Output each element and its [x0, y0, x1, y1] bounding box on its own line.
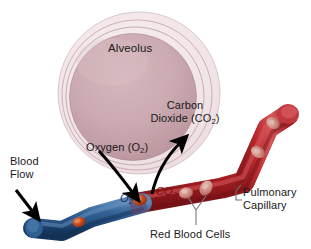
blood-flow-line1: Blood [10, 155, 39, 167]
o2-inline-subscript: 2 [129, 197, 133, 206]
o2-inline-text: O [120, 192, 129, 204]
blood-flow-label: BloodFlow [10, 155, 39, 181]
carbon-dioxide-subscript: 2 [211, 117, 215, 126]
blood-flow-arrow [16, 190, 33, 212]
oxygen-subscript: 2 [140, 146, 144, 155]
carbon-dioxide-line2-pre: Dioxide (CO [150, 112, 211, 124]
alveolus-label: Alveolus [108, 42, 152, 55]
blood-flow-line2: Flow [10, 168, 34, 180]
pulmonary-capillary-line1: Pulmonary [243, 186, 296, 198]
carbon-dioxide-label: CarbonDioxide (CO2) [142, 99, 228, 126]
figure-canvas: Alveolus CarbonDioxide (CO2) Oxygen (O2)… [0, 0, 311, 249]
oxygen-text: Oxygen (O [86, 141, 140, 153]
co2-inline-text: CO [156, 185, 173, 197]
pulmonary-capillary-line2: Capillary [243, 199, 287, 211]
red-blood-cells-label: Red Blood Cells [150, 228, 230, 241]
oxygen-label: Oxygen (O2) [86, 141, 148, 156]
o2-inline-label: O2 [120, 192, 133, 207]
oxygen-paren: ) [144, 141, 148, 153]
co2-inline-label: CO2 [156, 185, 177, 200]
pulmonary-capillary-label: PulmonaryCapillary [243, 186, 296, 212]
co2-inline-subscript: 2 [173, 190, 177, 199]
carbon-dioxide-line1: Carbon [167, 99, 204, 111]
carbon-dioxide-line2-post: ) [216, 112, 220, 124]
